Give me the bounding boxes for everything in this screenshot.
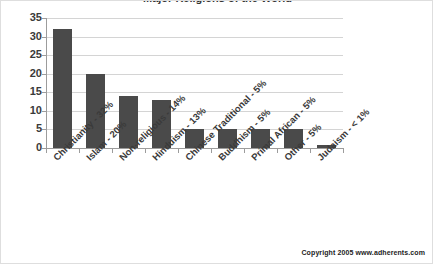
- x-axis-tick-mark: [145, 149, 146, 153]
- y-axis-tick-label: 0: [4, 142, 42, 153]
- y-axis-tick-labels: 35302520151050: [1, 1, 42, 264]
- y-axis-tick-label: 30: [4, 31, 42, 42]
- y-axis-tick-mark: [42, 18, 46, 19]
- x-axis-tick-mark: [46, 149, 47, 153]
- x-axis-tick-mark: [211, 149, 212, 153]
- y-axis-tick-label: 5: [4, 123, 42, 134]
- bar[interactable]: [53, 29, 71, 148]
- y-axis-tick-mark: [42, 129, 46, 130]
- y-axis-tick-label: 10: [4, 105, 42, 116]
- y-axis-tick-mark: [42, 37, 46, 38]
- x-axis-tick-mark: [277, 149, 278, 153]
- y-axis-tick-label: 25: [4, 49, 42, 60]
- bar-chart-figure: Major Religions of the World 35302520151…: [0, 0, 433, 264]
- y-axis-tick-mark: [42, 111, 46, 112]
- y-axis-tick-mark: [42, 55, 46, 56]
- x-axis-tick-mark: [244, 149, 245, 153]
- x-axis-tick-mark: [112, 149, 113, 153]
- chart-title: Major Religions of the World: [1, 0, 433, 4]
- y-axis-tick-label: 35: [4, 12, 42, 23]
- y-axis-tick-mark: [42, 74, 46, 75]
- y-axis-tick-mark: [42, 92, 46, 93]
- x-axis-tick-mark: [178, 149, 179, 153]
- x-axis-tick-mark: [310, 149, 311, 153]
- y-axis-tick-label: 20: [4, 68, 42, 79]
- copyright-notice: Copyright 2005 www.adherents.com: [301, 249, 425, 256]
- x-axis-tick-mark: [79, 149, 80, 153]
- x-axis-tick-mark: [343, 149, 344, 153]
- y-axis-tick-label: 15: [4, 86, 42, 97]
- y-axis-tick-mark: [42, 148, 46, 149]
